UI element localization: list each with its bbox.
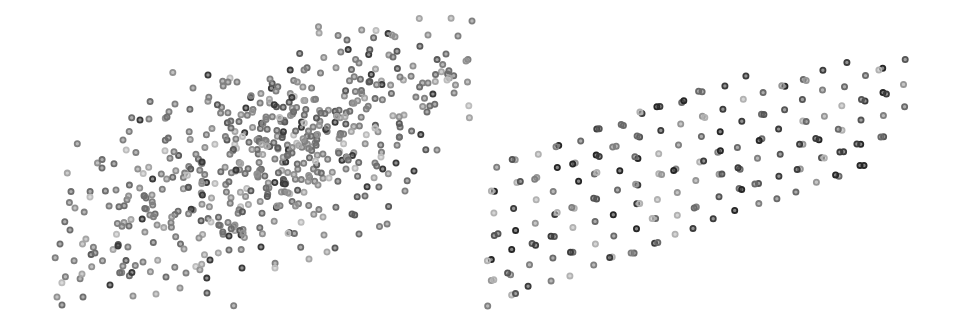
scatter-plot-lattice-cloud	[477, 0, 954, 326]
data-point	[170, 70, 175, 75]
data-point	[372, 175, 377, 180]
data-point	[216, 222, 221, 227]
data-point	[248, 188, 253, 193]
data-point	[151, 214, 156, 219]
data-point	[800, 97, 805, 102]
data-point	[621, 123, 626, 128]
data-point	[162, 148, 167, 153]
data-point	[576, 179, 581, 184]
data-point	[167, 156, 172, 161]
data-point	[373, 96, 378, 101]
data-point	[205, 72, 210, 77]
data-point	[876, 67, 881, 72]
data-point	[239, 265, 244, 270]
data-point	[215, 102, 220, 107]
data-point	[804, 78, 809, 83]
data-point	[863, 73, 868, 78]
data-point	[466, 103, 471, 108]
data-point	[229, 226, 234, 231]
data-point	[675, 213, 680, 218]
data-point	[696, 89, 701, 94]
data-point	[288, 68, 293, 73]
data-point	[317, 123, 322, 128]
data-point	[352, 74, 357, 79]
data-point	[822, 156, 827, 161]
data-point	[80, 241, 85, 246]
data-point	[243, 194, 248, 199]
data-point	[128, 217, 133, 222]
data-point	[533, 243, 538, 248]
data-point	[597, 126, 602, 131]
data-point	[820, 87, 825, 92]
data-point	[82, 210, 87, 215]
data-point	[299, 220, 304, 225]
data-point	[372, 125, 377, 130]
data-point	[434, 147, 439, 152]
data-point	[756, 201, 761, 206]
data-point	[202, 172, 207, 177]
data-point	[570, 161, 575, 166]
data-point	[169, 225, 174, 230]
data-point	[593, 241, 598, 246]
data-point	[362, 193, 367, 198]
data-point	[343, 88, 348, 93]
data-point	[814, 180, 819, 185]
data-point	[103, 188, 108, 193]
data-point	[326, 175, 331, 180]
data-point	[311, 212, 316, 217]
data-point	[130, 293, 135, 298]
data-point	[776, 127, 781, 132]
data-point	[633, 182, 638, 187]
data-point	[854, 141, 859, 146]
data-point	[551, 189, 556, 194]
data-point	[120, 264, 125, 269]
data-point	[155, 222, 160, 227]
data-point	[489, 188, 494, 193]
data-point	[228, 201, 233, 206]
data-point	[306, 203, 311, 208]
data-point	[91, 245, 96, 250]
data-point	[272, 156, 277, 161]
data-point	[549, 278, 554, 283]
data-point	[313, 97, 318, 102]
data-point	[495, 231, 500, 236]
data-point	[432, 102, 437, 107]
data-point	[779, 83, 784, 88]
data-point	[107, 204, 112, 209]
data-point	[411, 168, 416, 173]
data-point	[632, 154, 637, 159]
data-point	[306, 173, 311, 178]
data-point	[190, 85, 195, 90]
data-point	[113, 187, 118, 192]
data-point	[395, 66, 400, 71]
data-point	[397, 114, 402, 119]
data-point	[778, 152, 783, 157]
data-point	[79, 271, 84, 276]
data-point	[62, 219, 67, 224]
data-point	[164, 114, 169, 119]
data-point	[386, 204, 391, 209]
data-point	[68, 189, 73, 194]
data-point	[650, 216, 655, 221]
data-point	[578, 138, 583, 143]
data-point	[161, 225, 166, 230]
scatter-plot-random-cloud	[0, 0, 477, 326]
data-point	[656, 151, 661, 156]
data-point	[249, 147, 254, 152]
data-point	[782, 107, 787, 112]
data-point	[402, 188, 407, 193]
data-point	[321, 232, 326, 237]
data-point	[761, 112, 766, 117]
data-point	[422, 96, 427, 101]
data-point	[186, 185, 191, 190]
data-point	[390, 54, 395, 59]
data-point	[594, 196, 599, 201]
data-point	[171, 149, 176, 154]
data-point	[272, 102, 277, 107]
data-point	[635, 133, 640, 138]
data-point	[307, 155, 312, 160]
data-point	[397, 121, 402, 126]
data-point	[353, 166, 358, 171]
data-point	[347, 78, 352, 83]
data-point	[373, 28, 378, 33]
